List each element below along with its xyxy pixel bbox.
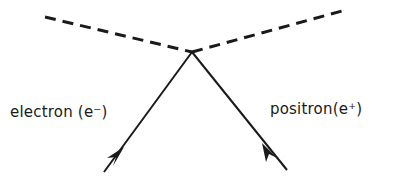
- left-dashed-line: [45, 17, 192, 52]
- right-dashed-line: [192, 11, 342, 52]
- fermion-lines: [104, 52, 287, 172]
- feynman-diagram: [0, 0, 404, 182]
- photon-lines: [45, 11, 342, 52]
- electron-label: electron (e⁻): [10, 103, 108, 121]
- positron-arrowhead-icon: [262, 143, 277, 162]
- positron-label: positron(e⁺): [270, 100, 362, 118]
